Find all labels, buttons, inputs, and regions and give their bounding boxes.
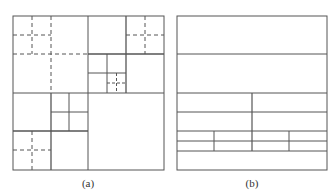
panel-a-label: (a) (68, 177, 108, 189)
panel-b-diagram (177, 16, 327, 170)
figure-canvas (0, 0, 335, 196)
panel-a-diagram (13, 16, 164, 170)
panel-b-label: (b) (232, 177, 272, 189)
